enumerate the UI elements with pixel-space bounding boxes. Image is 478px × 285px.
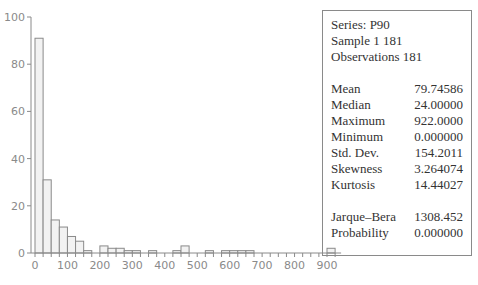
stat-label: Minimum (331, 129, 383, 145)
x-tick-label: 300 (122, 259, 143, 272)
sample-label: Sample 1 181 (331, 33, 463, 49)
stat-value: 3.264074 (414, 161, 463, 177)
stat-value: 154.2011 (415, 145, 463, 161)
stat-value: 0.000000 (414, 129, 463, 145)
histogram-bar (51, 220, 59, 253)
statistics-box: Series: P90 Sample 1 181 Observations 18… (322, 10, 472, 256)
x-tick-label: 900 (317, 259, 338, 272)
y-tick-label: 40 (11, 153, 25, 166)
stat-label: Skewness (331, 161, 382, 177)
y-tick-label: 0 (18, 247, 25, 260)
observations-label: Observations 181 (331, 49, 463, 65)
stat-row: Mean79.74586 (331, 81, 463, 97)
stat-value: 79.74586 (414, 81, 463, 97)
stat-row: Minimum0.000000 (331, 129, 463, 145)
stat-value: 24.00000 (414, 97, 463, 113)
y-tick-label: 20 (11, 200, 25, 213)
histogram-bar (181, 246, 189, 253)
x-tick-label: 0 (32, 259, 39, 272)
stat-row: Std. Dev.154.2011 (331, 145, 463, 161)
histogram-bar (76, 241, 84, 253)
stat-row: Jarque–Bera1308.452 (331, 209, 463, 225)
stat-row: Probability0.000000 (331, 225, 463, 241)
stat-value: 0.000000 (414, 225, 463, 241)
x-tick-label: 600 (219, 259, 240, 272)
stat-label: Jarque–Bera (331, 209, 396, 225)
histogram-bar (43, 180, 51, 253)
stat-label: Median (331, 97, 371, 113)
stat-value: 1308.452 (414, 209, 463, 225)
stat-row: Median24.00000 (331, 97, 463, 113)
stat-row: Kurtosis14.44027 (331, 177, 463, 193)
y-tick-label: 80 (11, 58, 25, 71)
stat-label: Mean (331, 81, 361, 97)
stat-label: Std. Dev. (331, 145, 379, 161)
x-tick-label: 800 (284, 259, 305, 272)
y-tick-label: 60 (11, 105, 25, 118)
stat-label: Probability (331, 225, 389, 241)
y-tick-label: 100 (4, 11, 25, 24)
histogram-bar (59, 227, 67, 253)
stat-row: Maximum922.0000 (331, 113, 463, 129)
x-tick-label: 400 (154, 259, 175, 272)
stat-value: 922.0000 (414, 113, 463, 129)
x-tick-label: 700 (252, 259, 273, 272)
histogram-bar (108, 248, 116, 253)
x-tick-label: 500 (187, 259, 208, 272)
x-tick-label: 100 (57, 259, 78, 272)
histogram-bar (35, 38, 43, 253)
histogram-bar (116, 248, 124, 253)
series-label: Series: P90 (331, 17, 463, 33)
stat-label: Maximum (331, 113, 385, 129)
x-tick-label: 200 (89, 259, 110, 272)
stat-value: 14.44027 (414, 177, 463, 193)
stat-row: Skewness3.264074 (331, 161, 463, 177)
histogram-bar (100, 246, 108, 253)
histogram-bar (67, 236, 75, 253)
stat-label: Kurtosis (331, 177, 375, 193)
